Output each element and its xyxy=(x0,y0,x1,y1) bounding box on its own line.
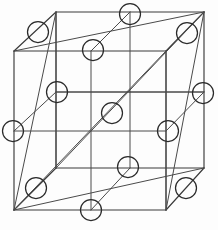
figure-background xyxy=(0,0,218,230)
lattice-diagram-svg xyxy=(0,0,218,230)
lattice-figure xyxy=(0,0,218,230)
